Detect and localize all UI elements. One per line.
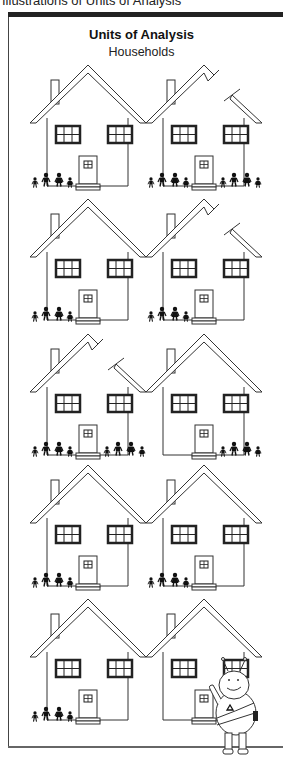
family-group xyxy=(148,173,189,188)
household-grid xyxy=(0,0,283,757)
family-group xyxy=(32,307,73,322)
household-house xyxy=(146,334,262,459)
houses-illustration xyxy=(0,0,283,757)
household-house xyxy=(146,465,262,590)
household-house xyxy=(30,465,146,590)
household-house xyxy=(30,334,146,459)
bee-mascot-icon xyxy=(209,658,258,755)
household-house xyxy=(146,199,262,324)
household-house xyxy=(146,65,262,190)
household-house xyxy=(30,199,146,324)
household-house xyxy=(30,65,146,190)
family-group xyxy=(148,573,189,588)
family-group xyxy=(148,307,189,322)
household-house xyxy=(146,599,262,754)
family-group xyxy=(32,442,73,457)
household-house xyxy=(30,599,146,724)
family-group xyxy=(32,707,73,722)
family-group xyxy=(104,442,145,457)
family-group xyxy=(220,442,261,457)
family-group xyxy=(32,573,73,588)
family-group xyxy=(220,173,261,188)
family-group xyxy=(32,173,73,188)
